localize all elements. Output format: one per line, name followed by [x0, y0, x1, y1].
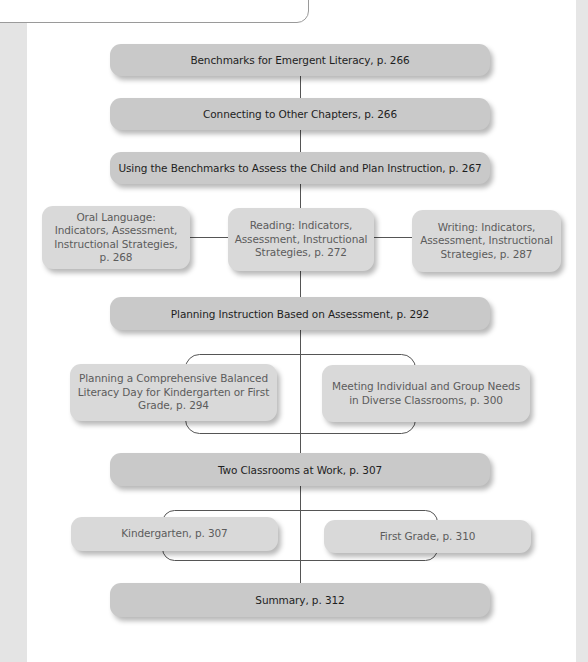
node-two-classrooms: Two Classrooms at Work, p. 307	[110, 453, 490, 486]
node-label: Summary, p. 312	[255, 594, 344, 606]
node-label: Connecting to Other Chapters, p. 266	[203, 108, 397, 120]
node-label: Benchmarks for Emergent Literacy, p. 266	[190, 54, 409, 66]
node-writing: Writing: Indicators, Assessment, Instruc…	[412, 210, 561, 272]
node-balanced-literacy-day: Planning a Comprehensive Balanced Litera…	[70, 364, 277, 421]
node-summary: Summary, p. 312	[110, 583, 490, 617]
node-planning-instruction: Planning Instruction Based on Assessment…	[110, 297, 490, 330]
node-meeting-needs: Meeting Individual and Group Needs in Di…	[322, 365, 530, 422]
node-label: Writing: Indicators, Assessment, Instruc…	[418, 221, 555, 262]
node-label: Meeting Individual and Group Needs in Di…	[328, 380, 524, 407]
node-label: Planning a Comprehensive Balanced Litera…	[76, 372, 271, 413]
node-reading: Reading: Indicators, Assessment, Instruc…	[228, 208, 374, 271]
node-first-grade: First Grade, p. 310	[324, 520, 531, 553]
node-label: Reading: Indicators, Assessment, Instruc…	[234, 219, 368, 260]
node-kindergarten: Kindergarten, p. 307	[71, 517, 278, 551]
node-oral-language: Oral Language: Indicators, Assessment, I…	[42, 206, 190, 269]
node-benchmarks: Benchmarks for Emergent Literacy, p. 266	[110, 44, 490, 76]
node-using-benchmarks: Using the Benchmarks to Assess the Child…	[110, 152, 490, 184]
node-label: Oral Language: Indicators, Assessment, I…	[48, 211, 184, 265]
node-label: Planning Instruction Based on Assessment…	[171, 308, 429, 320]
node-label: First Grade, p. 310	[380, 530, 476, 544]
node-label: Two Classrooms at Work, p. 307	[218, 464, 382, 476]
node-connecting-chapters: Connecting to Other Chapters, p. 266	[110, 98, 490, 130]
node-label: Kindergarten, p. 307	[121, 527, 227, 541]
node-label: Using the Benchmarks to Assess the Child…	[118, 162, 481, 174]
